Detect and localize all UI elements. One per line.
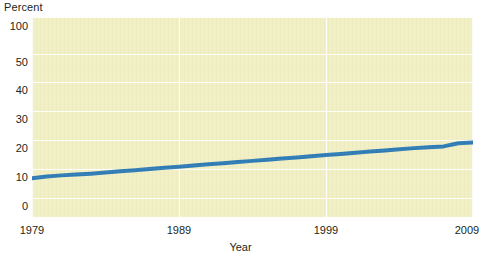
y-tick-label-10: 10 [0,172,28,183]
x-axis-title-label: Year [229,241,251,253]
y-tick-label-0: 0 [0,201,28,212]
x-axis-title: Year [0,241,497,253]
x-tick-label-2009: 2009 [437,225,497,236]
x-tick-label-1999: 1999 [296,225,356,236]
y-tick-label-40: 40 [0,85,28,96]
y-tick-label-100: 100 [0,21,28,32]
x-tick-label-1979: 1979 [2,225,62,236]
line-chart: Percent 100 50 40 30 20 10 0 1979 1989 1… [0,0,497,257]
y-tick-label-30: 30 [0,114,28,125]
y-tick-label-50: 50 [0,57,28,68]
series-layer [32,17,473,217]
plot-area [32,17,473,217]
y-axis-caption: Percent [4,1,43,14]
y-tick-label-20: 20 [0,143,28,154]
data-line-percent [32,143,473,179]
x-tick-label-1989: 1989 [149,225,209,236]
